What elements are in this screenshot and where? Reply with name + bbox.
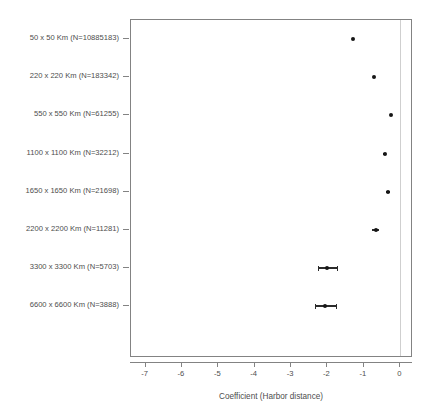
y-axis-tick <box>123 267 129 268</box>
confidence-interval-cap <box>337 266 338 271</box>
data-point <box>389 113 393 117</box>
y-axis-tick <box>123 38 129 39</box>
x-axis-tick-label: -6 <box>169 369 193 378</box>
y-axis-labels: 50 x 50 Km (N=10885183)220 x 220 Km (N=1… <box>0 0 119 412</box>
x-axis-tick <box>363 362 364 367</box>
data-point <box>372 75 376 79</box>
x-axis-tick-label: -4 <box>242 369 266 378</box>
forest-plot-figure: 50 x 50 Km (N=10885183)220 x 220 Km (N=1… <box>0 0 431 412</box>
y-axis-tick <box>123 153 129 154</box>
x-axis-tick-label: -2 <box>314 369 338 378</box>
x-axis-title: Coefficient (Harbor distance) <box>130 392 412 401</box>
x-axis-tick-label: -3 <box>278 369 302 378</box>
x-axis-tick-label: 0 <box>387 369 411 378</box>
x-axis-tick <box>254 362 255 367</box>
y-axis-label: 6600 x 6600 Km (N=3888) <box>30 301 119 309</box>
data-point <box>374 228 378 232</box>
y-axis-tick <box>123 229 129 230</box>
confidence-interval-cap <box>318 266 319 271</box>
y-axis-tick <box>123 76 129 77</box>
confidence-interval-cap <box>336 304 337 309</box>
y-axis-tick <box>123 114 129 115</box>
x-axis-tick-label: -7 <box>133 369 157 378</box>
data-point <box>386 190 390 194</box>
x-axis-tick-label: -5 <box>205 369 229 378</box>
x-axis-tick <box>326 362 327 367</box>
data-point <box>383 152 387 156</box>
y-axis-label: 550 x 550 Km (N=61255) <box>34 110 119 118</box>
x-axis-tick <box>181 362 182 367</box>
x-axis-tick-label: -1 <box>351 369 375 378</box>
y-axis-label: 50 x 50 Km (N=10885183) <box>30 34 119 42</box>
x-axis-tick <box>290 362 291 367</box>
data-point <box>351 37 355 41</box>
x-axis-tick <box>217 362 218 367</box>
plot-panel <box>130 19 412 357</box>
y-axis-label: 1650 x 1650 Km (N=21698) <box>25 187 119 195</box>
x-axis-tick <box>399 362 400 367</box>
data-point <box>323 304 327 308</box>
y-axis-label: 1100 x 1100 Km (N=32212) <box>27 149 119 157</box>
y-axis-tick <box>123 305 129 306</box>
x-axis-tick <box>145 362 146 367</box>
y-axis-label: 220 x 220 Km (N=183342) <box>30 72 119 80</box>
zero-reference-line <box>400 20 401 356</box>
y-axis-label: 3300 x 3300 Km (N=5703) <box>30 263 119 271</box>
x-axis-line <box>130 362 412 363</box>
confidence-interval-cap <box>315 304 316 309</box>
y-axis-tick <box>123 191 129 192</box>
y-axis-label: 2200 x 2200 Km (N=11281) <box>26 225 119 233</box>
data-point <box>325 266 329 270</box>
